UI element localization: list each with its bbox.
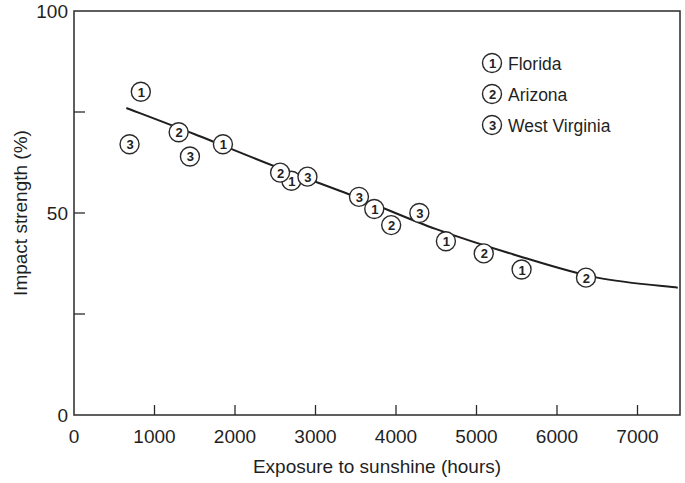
legend-item-florida: 1Florida [483, 54, 562, 74]
svg-text:3: 3 [416, 206, 423, 221]
data-point-west-virginia: 3 [180, 147, 199, 166]
x-tick-label: 1000 [133, 426, 175, 447]
legend-label: Arizona [508, 85, 568, 105]
x-axis-tick-labels: 01000200030004000500060007000 [69, 426, 659, 447]
svg-text:3: 3 [304, 170, 311, 185]
chart: 01000200030004000500060007000 050100 Exp… [0, 0, 685, 483]
data-point-florida: 1 [512, 260, 531, 279]
svg-text:2: 2 [489, 87, 496, 102]
y-tick-label: 0 [57, 405, 68, 426]
data-point-west-virginia: 3 [298, 167, 317, 186]
svg-text:1: 1 [443, 234, 450, 249]
legend: 1Florida2Arizona3West Virginia [483, 54, 611, 136]
data-point-arizona: 2 [169, 123, 188, 142]
legend-label: West Virginia [508, 116, 611, 136]
y-axis-title: Impact strength (%) [10, 130, 31, 296]
data-point-arizona: 2 [576, 268, 595, 287]
svg-text:3: 3 [187, 149, 194, 164]
legend-marker-icon: 1 [483, 54, 502, 73]
data-point-arizona: 2 [382, 216, 401, 235]
svg-text:1: 1 [220, 137, 227, 152]
x-tick-label: 2000 [214, 426, 256, 447]
y-tick-label: 100 [36, 1, 68, 22]
svg-text:1: 1 [518, 263, 525, 278]
svg-text:2: 2 [481, 246, 488, 261]
y-tick-label: 50 [47, 203, 68, 224]
svg-text:2: 2 [583, 271, 590, 286]
legend-marker-icon: 2 [483, 85, 502, 104]
svg-text:1: 1 [371, 202, 378, 217]
x-tick-label: 3000 [294, 426, 336, 447]
svg-text:2: 2 [388, 218, 395, 233]
data-point-west-virginia: 3 [349, 187, 368, 206]
legend-item-west-virginia: 3West Virginia [483, 116, 611, 136]
svg-text:1: 1 [138, 85, 145, 100]
x-tick-label: 5000 [455, 426, 497, 447]
data-point-west-virginia: 3 [120, 135, 139, 154]
data-point-arizona: 2 [474, 244, 493, 263]
data-point-florida: 1 [365, 199, 384, 218]
data-point-arizona: 2 [271, 163, 290, 182]
data-point-florida: 1 [131, 82, 150, 101]
legend-label: Florida [508, 54, 562, 74]
svg-text:2: 2 [176, 125, 183, 140]
x-tick-label: 6000 [536, 426, 578, 447]
data-point-florida: 1 [436, 232, 455, 251]
y-axis-ticks [74, 112, 85, 314]
x-axis-ticks [155, 405, 638, 415]
svg-text:3: 3 [126, 137, 133, 152]
data-point-west-virginia: 3 [410, 204, 429, 223]
svg-text:1: 1 [489, 56, 496, 71]
data-point-florida: 1 [213, 135, 232, 154]
x-tick-label: 7000 [616, 426, 658, 447]
x-tick-label: 4000 [375, 426, 417, 447]
x-axis-title: Exposure to sunshine (hours) [253, 456, 501, 477]
legend-marker-icon: 3 [483, 116, 502, 135]
x-tick-label: 0 [69, 426, 80, 447]
y-axis-tick-labels: 050100 [36, 1, 68, 426]
svg-text:2: 2 [277, 166, 284, 181]
legend-item-arizona: 2Arizona [483, 85, 568, 105]
svg-text:3: 3 [489, 118, 496, 133]
svg-text:3: 3 [356, 190, 363, 205]
data-markers: 1111112222233333 [120, 82, 595, 287]
